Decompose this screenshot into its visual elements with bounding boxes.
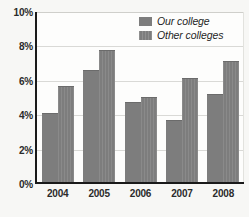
legend-swatch-icon (139, 31, 152, 40)
y-tick-label: 6% (2, 75, 33, 86)
legend-swatch-icon (139, 17, 152, 26)
chart-legend: Our collegeOther colleges (139, 15, 223, 41)
bar (58, 86, 74, 182)
legend-item: Our college (139, 15, 223, 27)
x-tick-label: 2006 (120, 188, 161, 199)
y-tick-label: 4% (2, 110, 33, 121)
bar (182, 78, 198, 182)
bar (166, 120, 182, 182)
x-tick-label: 2008 (203, 188, 244, 199)
legend-item-label: Other colleges (157, 29, 223, 41)
y-axis: 0%2%4%6%8%10% (0, 12, 33, 184)
y-tick-label: 0% (2, 179, 33, 190)
legend-item: Other colleges (139, 29, 223, 41)
bar-group (37, 12, 78, 182)
bar (125, 102, 141, 182)
x-tick-label: 2004 (37, 188, 78, 199)
bar (83, 70, 99, 182)
bar (99, 50, 115, 182)
y-tick-label: 10% (2, 7, 33, 18)
bar (141, 97, 157, 182)
bar (207, 94, 223, 182)
bar (223, 61, 239, 182)
legend-item-label: Our college (157, 15, 210, 27)
x-tick-label: 2005 (78, 188, 119, 199)
bar-chart: 0%2%4%6%8%10% 20042005200620072008 Our c… (0, 0, 249, 217)
y-tick-label: 8% (2, 41, 33, 52)
bar (42, 113, 58, 182)
x-tick-label: 2007 (161, 188, 202, 199)
y-tick-label: 2% (2, 144, 33, 155)
bar-group (78, 12, 119, 182)
x-axis: 20042005200620072008 (37, 188, 244, 199)
